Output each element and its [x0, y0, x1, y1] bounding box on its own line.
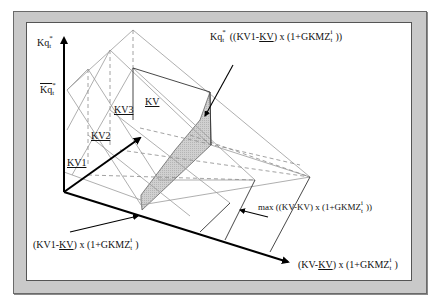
- y-axis-label: Kq*t: [37, 38, 54, 48]
- grid-lines: [64, 30, 310, 216]
- depth-tick-kv2: KV2: [91, 131, 110, 141]
- depth-tick-kv1: KV1: [67, 158, 86, 168]
- bottom-left-annotation: (KV1-KV) x (1+GKMZit): [33, 240, 139, 250]
- y-bar-label: Kq*t: [40, 85, 57, 95]
- depth-axis-label: KV: [145, 97, 159, 107]
- middle-annotation: max ((KV-KV) x (1+GKMZit)): [258, 203, 372, 213]
- shaded-region: [141, 92, 211, 210]
- pointer-arrows: [70, 65, 268, 232]
- surface-lines: [133, 68, 310, 252]
- bottom-left-pointer: [70, 216, 138, 232]
- x-axis: [64, 192, 288, 262]
- top-pointer: [205, 65, 233, 116]
- x-axis-label: (KV-KV) x (1+GKMZit): [298, 260, 398, 270]
- top-annotation: Kq*t ((KV1-KV) x (1+GKMZit)): [210, 32, 342, 42]
- depth-tick-kv3: KV3: [114, 105, 133, 115]
